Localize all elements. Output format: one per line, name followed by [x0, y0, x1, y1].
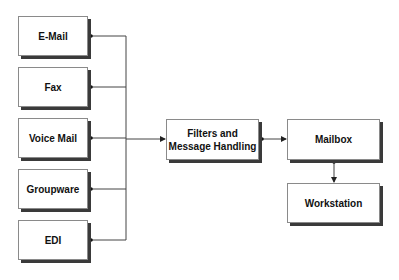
node-voicemail: Voice Mail [18, 118, 88, 158]
node-edi: EDI [18, 220, 88, 260]
node-label-line2: Message Handling [169, 140, 257, 153]
node-label: Workstation [305, 197, 363, 210]
node-filters: Filters and Message Handling [166, 119, 259, 160]
node-label: Fax [44, 81, 61, 94]
node-workstation: Workstation [287, 183, 380, 223]
node-email: E-Mail [18, 16, 88, 56]
node-mailbox: Mailbox [287, 119, 380, 160]
node-label: EDI [45, 234, 62, 247]
node-label-line1: Filters and [187, 127, 238, 140]
node-label: E-Mail [38, 30, 67, 43]
node-label: Groupware [27, 183, 80, 196]
node-label: Voice Mail [29, 132, 77, 145]
node-fax: Fax [18, 67, 88, 107]
node-groupware: Groupware [18, 169, 88, 209]
node-label: Mailbox [315, 133, 352, 146]
